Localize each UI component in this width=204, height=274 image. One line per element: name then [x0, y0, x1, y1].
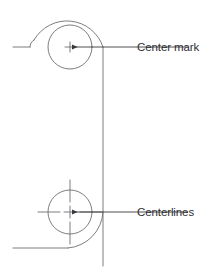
drawing-canvas: Center mark Centerlines [0, 0, 204, 274]
technical-drawing-figure: Center mark Centerlines [0, 0, 204, 274]
outline-bottom-outer-arc [68, 212, 103, 248]
center-mark-label: Center mark [137, 41, 200, 53]
annotation-centerlines: Centerlines [72, 206, 194, 218]
outline-upper-fillet [30, 40, 34, 47]
annotation-center-mark: Center mark [72, 41, 200, 53]
centerlines-label: Centerlines [137, 206, 194, 218]
